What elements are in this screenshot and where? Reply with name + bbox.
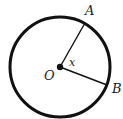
- radius-ob: [60, 67, 107, 85]
- label-a: A: [84, 3, 94, 18]
- center-point: [57, 64, 63, 70]
- circle-diagram: A B O x: [0, 0, 123, 119]
- label-b: B: [111, 81, 122, 96]
- label-o: O: [44, 68, 55, 83]
- label-angle-x: x: [69, 56, 76, 69]
